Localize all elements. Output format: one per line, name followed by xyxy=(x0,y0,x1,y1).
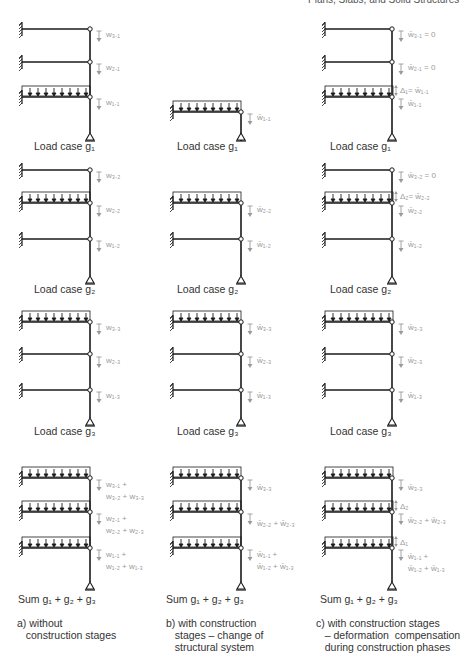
delta-label: Δ₂= w̄₂.₂ xyxy=(400,192,430,202)
load-case-label: Load case g₃ xyxy=(34,425,96,437)
load-case-label: Load case g₂ xyxy=(34,283,95,295)
deflection-label: w₂.₁ xyxy=(106,63,120,73)
deflection-label: w̄₂.₂ xyxy=(257,205,271,215)
frame-b-g1 xyxy=(170,101,253,141)
delta-label: Δ₁= w̄₁.₁ xyxy=(400,86,428,96)
deflection-label: w̄₃.₁ = 0 xyxy=(408,30,436,40)
deflection-label: w₃.₁ + w₃.₂ + w₃.₃ xyxy=(106,479,144,503)
deflection-label: w̄₁.₁ + w̄₁.₂ + w̄₁.₃ xyxy=(408,551,445,575)
deflection-label: w̄₃.₃ xyxy=(408,323,423,333)
frame-c-g2 xyxy=(322,163,404,284)
deflection-label: w̄₁.₂ xyxy=(408,240,422,250)
deflection-label: w₂.₃ xyxy=(106,356,120,366)
load-case-label: Load case g₁ xyxy=(34,140,95,152)
load-case-label: Load case g₁ xyxy=(330,140,391,152)
deflection-label: w₃.₃ xyxy=(106,323,121,333)
deflection-label: w̄₁.₁ xyxy=(257,113,270,123)
deflection-label: w₁.₃ xyxy=(106,391,120,401)
caption-b: b) with construction stages – change of … xyxy=(166,617,263,653)
frame-c-sum xyxy=(322,467,404,590)
deflection-label: w̄₃.₂ = 0 xyxy=(408,171,436,181)
load-case-label: Load case g₂ xyxy=(330,283,391,295)
deflection-label: w̄₃.₃ xyxy=(257,483,272,493)
deflection-label: w₂.₁ + w₂.₂ + w₂.₃ xyxy=(106,513,144,537)
structural-diagrams xyxy=(0,0,466,653)
frame-a-g2 xyxy=(19,163,102,284)
delta-label: Δ₂ xyxy=(400,502,408,512)
deflection-label: w̄₁.₁ xyxy=(408,99,421,109)
deflection-label: w̄₁.₃ xyxy=(257,391,271,401)
load-case-label: Load case g₃ xyxy=(177,425,239,437)
delta-label: Δ₁ xyxy=(400,538,408,548)
deflection-label: w̄₁.₁ + w̄₁.₂ + w̄₁.₃ xyxy=(257,549,294,573)
deflection-label: w̄₁.₂ xyxy=(257,240,271,250)
load-case-label: Load case g₃ xyxy=(330,425,392,437)
deflection-label: w̄₂.₂ + w̄₂.₃ xyxy=(408,516,446,526)
deflection-label: w̄₂.₃ xyxy=(257,356,271,366)
caption-c: c) with construction stages – deformatio… xyxy=(316,617,460,653)
deflection-label: w₂.₂ xyxy=(106,205,120,215)
deflection-label: w₁.₂ xyxy=(106,240,120,250)
deflection-label: w₁.₁ + w₁.₂ + w₁.₃ xyxy=(106,549,143,573)
frame-a-g3 xyxy=(19,311,102,426)
load-case-label: Load case g₂ xyxy=(177,283,238,295)
frame-a-sum xyxy=(19,467,102,590)
sum-label: Sum g₁ + g₂ + g₃ xyxy=(166,593,244,605)
sum-label: Sum g₁ + g₂ + g₃ xyxy=(18,593,96,605)
frame-b-g2 xyxy=(170,192,253,284)
frame-b-g3 xyxy=(170,311,253,426)
frame-b-sum xyxy=(170,467,253,590)
frame-c-g1 xyxy=(322,22,404,141)
deflection-label: w₁.₁ xyxy=(106,98,119,108)
deflection-label: w̄₁.₃ xyxy=(408,391,422,401)
caption-a: a) without construction stages xyxy=(17,617,116,641)
frame-a-g1 xyxy=(19,22,102,141)
frame-c-g3 xyxy=(322,311,404,426)
deflection-label: w̄₃.₃ xyxy=(257,323,272,333)
deflection-label: w̄₂.₂ xyxy=(408,206,422,216)
deflection-label: w₃.₂ xyxy=(106,171,120,181)
deflection-label: w̄₂.₃ xyxy=(408,356,422,366)
deflection-label: w̄₂.₁ = 0 xyxy=(408,63,435,73)
sum-label: Sum g₁ + g₂ + g₃ xyxy=(320,593,398,605)
deflection-label: w̄₃.₃ xyxy=(408,483,423,493)
deflection-label: w̄₂.₂ + w̄₂.₃ xyxy=(257,519,295,529)
load-case-label: Load case g₁ xyxy=(177,140,238,152)
deflection-label: w₃.₁ xyxy=(106,30,120,40)
